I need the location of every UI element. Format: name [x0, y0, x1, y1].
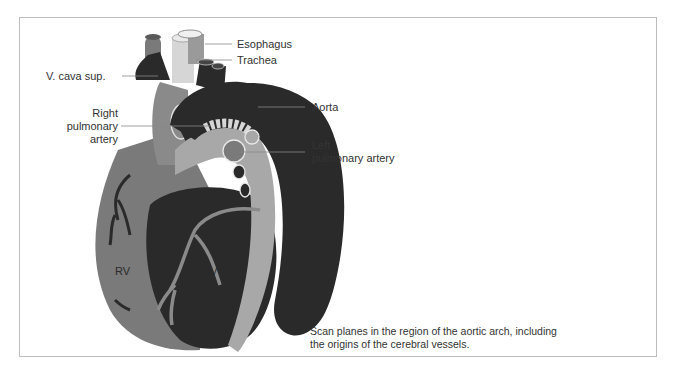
label-trachea: Trachea — [237, 54, 277, 67]
figure-caption: Scan planes in the region of the aortic … — [310, 325, 557, 351]
label-v-cava-sup: V. cava sup. — [46, 70, 106, 83]
label-esophagus: Esophagus — [237, 38, 292, 51]
label-la: LA — [216, 188, 229, 201]
label-right-pulmonary-artery: Right pulmonary artery — [60, 107, 118, 146]
heart-illustration — [0, 0, 677, 380]
label-rv: RV — [115, 265, 130, 278]
label-left-pulmonary-artery: Left pulmonary artery — [312, 139, 395, 165]
label-aorta: Aorta — [312, 101, 338, 114]
label-lv: LV — [205, 265, 218, 278]
